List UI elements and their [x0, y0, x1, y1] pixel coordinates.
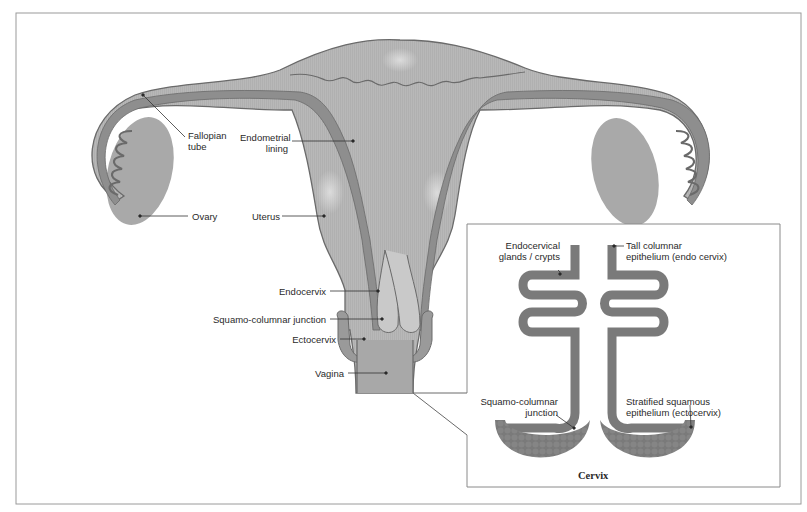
- label-line: Endometrial: [240, 132, 288, 143]
- label-line: Tall columnar: [626, 240, 727, 251]
- label-squamo-columnar-junction: Squamo-columnar junction: [206, 314, 326, 325]
- label-line: Fallopian: [188, 130, 227, 141]
- label-line: glands / crypts: [480, 251, 560, 262]
- label-endometrial-lining: Endometrial lining: [240, 132, 288, 154]
- label-line: lining: [240, 143, 288, 154]
- label-ovary: Ovary: [192, 211, 217, 222]
- label-uterus: Uterus: [252, 211, 280, 222]
- label-inset-squamo-columnar-junction: Squamo-columnar junction: [478, 396, 558, 418]
- label-stratified-squamous-epithelium: Stratified squamous epithelium (ectocerv…: [626, 396, 721, 418]
- label-endocervix: Endocervix: [240, 286, 326, 297]
- label-line: tube: [188, 141, 227, 152]
- label-endocervical-glands: Endocervical glands / crypts: [480, 240, 560, 262]
- inset-title: Cervix: [578, 470, 608, 481]
- right-ovary: [581, 111, 670, 233]
- label-line: junction: [478, 407, 558, 418]
- label-tall-columnar-epithelium: Tall columnar epithelium (endo cervix): [626, 240, 727, 262]
- label-line: Endocervical: [480, 240, 560, 251]
- label-vagina: Vagina: [290, 368, 344, 379]
- label-fallopian-tube: Fallopian tube: [188, 130, 227, 152]
- label-line: epithelium (ectocervix): [626, 407, 721, 418]
- label-line: epithelium (endo cervix): [626, 251, 727, 262]
- label-line: Squamo-columnar: [478, 396, 558, 407]
- label-ectocervix: Ectocervix: [260, 334, 336, 345]
- label-line: Stratified squamous: [626, 396, 721, 407]
